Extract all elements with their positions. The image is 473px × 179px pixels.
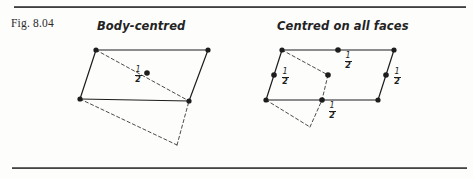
figure-page: Fig. 8.04 Body-centred Centred on all fa… <box>0 0 473 179</box>
solid-edge <box>189 50 208 101</box>
lattice-vertex-dot <box>391 47 396 52</box>
dashed-edge <box>80 99 177 145</box>
fraction-label-one-half: 12 <box>326 102 338 120</box>
dashed-edge <box>322 75 328 100</box>
fraction-label-one-half: 12 <box>342 52 354 70</box>
lattice-vertex-dot <box>77 96 82 101</box>
fraction-label-one-half: 12 <box>391 68 403 86</box>
lattice-point-right-face-centre <box>383 72 389 78</box>
lattice-point-body-centre <box>144 70 150 76</box>
lattice-diagrams-svg <box>0 0 473 179</box>
lattice-vertex-dot <box>205 47 210 52</box>
fraction-label-one-half: 12 <box>279 68 291 86</box>
lattice-vertex-dot <box>375 97 380 102</box>
solid-edge <box>80 99 189 101</box>
lattice-point-bottom-face-centre <box>319 97 325 103</box>
fraction-label-one-half: 12 <box>132 66 144 84</box>
lattice-vertex-dot <box>93 47 98 52</box>
solid-edge <box>80 50 96 99</box>
dashed-edge <box>266 100 310 127</box>
lattice-vertex-dot <box>263 97 268 102</box>
lattice-point-left-face-centre <box>271 72 277 78</box>
diagram-body-centred <box>77 47 210 145</box>
lattice-point-interior-face-centre <box>325 72 331 78</box>
dashed-edge <box>177 101 189 145</box>
lattice-point-top-face-centre <box>335 47 341 53</box>
lattice-vertex-dot <box>279 47 284 52</box>
lattice-vertex-dot <box>186 98 191 103</box>
dashed-edge <box>310 100 322 127</box>
